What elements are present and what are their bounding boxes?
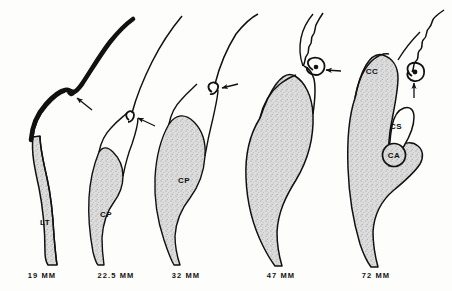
label-ca-stage-72mm: CA xyxy=(388,151,401,160)
stage-32mm-hook xyxy=(208,82,218,94)
label-cp-stage-22-5mm: CP xyxy=(100,210,112,219)
figure-panel: LT CP CP CC CS CA 19 MM 22.5 MM 32 MM 47… xyxy=(0,0,452,291)
stage-32mm-arrow xyxy=(222,84,238,88)
stage-19mm-drawing xyxy=(31,19,133,265)
stage-32mm-upper-stalk xyxy=(215,14,258,84)
stage-72mm-drawing xyxy=(348,10,444,267)
stage-19mm-body xyxy=(32,136,57,265)
stage-22-5mm-body xyxy=(89,148,123,265)
stage-22-5mm-upper-stalk xyxy=(132,16,182,113)
stage-72mm-coil-core xyxy=(413,70,418,75)
stage-22-5mm-ventral-contour xyxy=(99,113,127,152)
caption-stage-47mm: 47 MM xyxy=(267,271,295,280)
stage-19mm-arrow xyxy=(77,98,92,110)
stage-22-5mm-arrow xyxy=(138,118,155,126)
stage-47mm-body xyxy=(246,74,313,266)
stage-32mm-dorsal-contour xyxy=(205,90,218,156)
stage-47mm-drawing xyxy=(246,13,341,266)
caption-stage-72mm: 72 MM xyxy=(362,271,390,280)
anatomical-drawing xyxy=(0,0,452,291)
stage-22-5mm-dorsal-contour xyxy=(123,118,138,176)
label-cp-stage-32mm: CP xyxy=(178,176,190,185)
label-cc-stage-72mm: CC xyxy=(366,67,379,76)
stage-47mm-coil-core xyxy=(314,65,319,70)
stage-22-5mm-hook xyxy=(126,111,134,122)
stage-72mm-upper-stalk xyxy=(398,32,420,60)
caption-stage-22-5mm: 22.5 MM xyxy=(98,271,135,280)
label-lt-stage-19mm: LT xyxy=(40,218,50,227)
caption-stage-19mm: 19 MM xyxy=(28,271,56,280)
label-cs-stage-72mm: CS xyxy=(390,122,402,131)
stage-47mm-arrow xyxy=(326,70,341,71)
caption-stage-32mm: 32 MM xyxy=(172,271,200,280)
stage-32mm-drawing xyxy=(155,14,258,265)
stage-32mm-body xyxy=(155,116,205,265)
